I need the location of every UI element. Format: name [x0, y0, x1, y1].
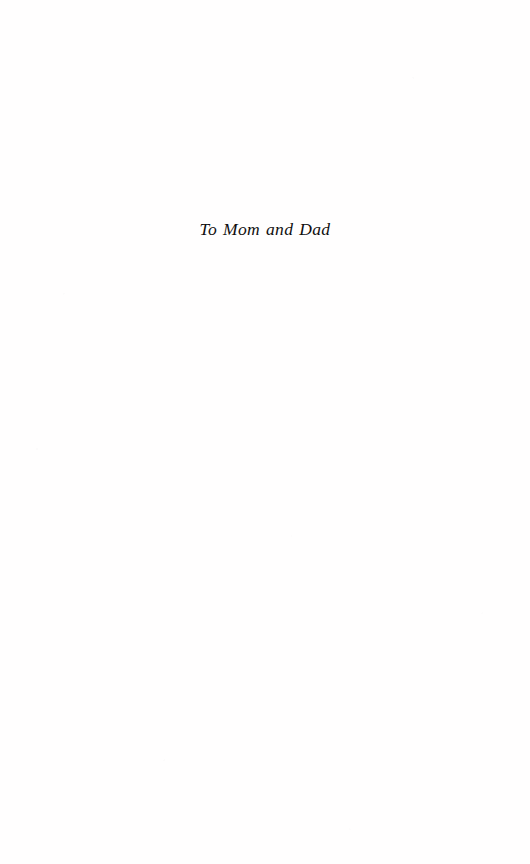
dedication-page: To Mom and Dad	[0, 0, 530, 864]
dedication-text: To Mom and Dad	[200, 221, 331, 239]
blank-page-body	[0, 238, 530, 864]
dedication-block: To Mom and Dad	[0, 0, 530, 238]
